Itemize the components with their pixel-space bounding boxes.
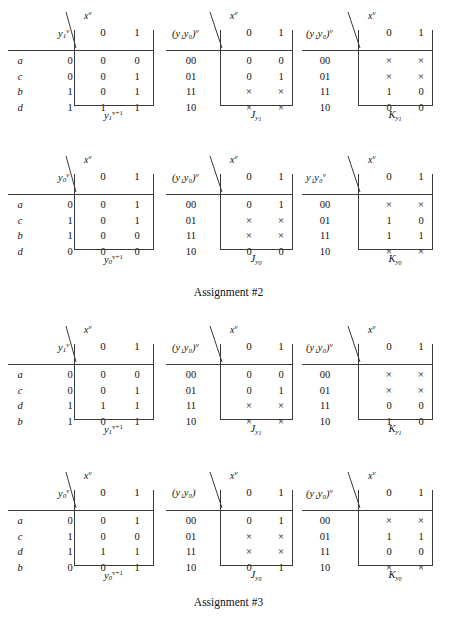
column-header-1: 1 — [414, 26, 428, 38]
row-state-code: 01 — [314, 385, 336, 396]
row-state-code: 01 — [314, 531, 336, 542]
table-header: xvy0v01 — [8, 468, 156, 510]
transition-table: xvy1v01a000c001b101d111y1v+1 — [8, 8, 156, 117]
row-state-name: d — [12, 400, 28, 411]
table-header: xv(y₁y₀)v01 — [166, 8, 294, 50]
table-row: 0000 — [166, 55, 294, 71]
column-header-0: 0 — [382, 486, 396, 498]
state-variable-label: (y₁y₀)v — [306, 487, 333, 499]
table-row: 1100 — [302, 400, 442, 416]
transition-table: xv(y₁y₀)v0100××01××11001010Ky1 — [302, 322, 442, 431]
table-row: 01×× — [166, 531, 294, 547]
cell-value-x1: 1 — [130, 515, 144, 526]
row-state-code: 0 — [62, 199, 78, 210]
table-caption: Ky1 — [358, 109, 432, 122]
state-variable-label: (y₁y₀)v — [306, 27, 333, 39]
state-variable-label: (y₁y₀)v — [306, 341, 333, 353]
column-header-0: 0 — [382, 26, 396, 38]
column-header-1: 1 — [130, 26, 144, 38]
cell-value-x0: 0 — [96, 385, 110, 396]
box-left-border — [220, 490, 221, 565]
table-body: 0000010111××10×× — [166, 50, 294, 117]
table-row: 0001 — [166, 199, 294, 215]
column-header-1: 1 — [414, 170, 428, 182]
cell-value-x1: × — [274, 546, 288, 557]
column-header-0: 0 — [382, 170, 396, 182]
column-header-0: 0 — [242, 486, 256, 498]
cell-value-x1: 0 — [414, 400, 428, 411]
row-state-code: 10 — [314, 416, 336, 427]
box-bottom-border — [74, 565, 154, 566]
cell-value-x0: × — [242, 531, 256, 542]
state-variable-label: (y₁y₀)v — [172, 27, 199, 39]
table-row: b100 — [8, 230, 156, 246]
state-variable-label: y0v — [58, 487, 69, 500]
table-header: xvy₁y₀v01 — [302, 152, 442, 194]
box-bottom-border — [220, 249, 293, 250]
row-state-code: 01 — [314, 71, 336, 82]
cell-value-x1: 0 — [414, 215, 428, 226]
cell-value-x1: × — [414, 55, 428, 66]
cell-value-x0: 0 — [242, 199, 256, 210]
box-right-border — [292, 30, 293, 105]
row-state-code: 00 — [180, 199, 202, 210]
table-body: 00××0110111110×× — [302, 194, 442, 261]
column-header-1: 1 — [130, 340, 144, 352]
table-caption: Ky0 — [358, 569, 432, 582]
box-left-border — [358, 344, 359, 419]
box-right-border — [432, 30, 433, 105]
table-caption: Jy0 — [220, 253, 292, 266]
box-right-border — [432, 490, 433, 565]
box-bottom-border — [74, 105, 154, 106]
table-row: 0101 — [166, 71, 294, 87]
row-state-code: 0 — [62, 515, 78, 526]
table-caption: Jy0 — [220, 569, 292, 582]
row-state-name: d — [12, 102, 28, 113]
table-row: c001 — [8, 385, 156, 401]
cell-value-x0: 1 — [382, 230, 396, 241]
table-body: 00××01××11001010 — [302, 364, 442, 431]
cell-value-x0: × — [382, 199, 396, 210]
row-state-code: 1 — [62, 400, 78, 411]
column-header-0: 0 — [242, 170, 256, 182]
transition-table: xv(y₁y₀)v0100××0111110010××Ky0 — [302, 468, 442, 577]
box-left-border — [220, 174, 221, 249]
input-variable-label: xv — [230, 153, 238, 165]
row-state-code: 01 — [180, 531, 202, 542]
cell-value-x0: 0 — [96, 369, 110, 380]
input-variable-label: xv — [230, 323, 238, 335]
cell-value-x1: 1 — [130, 385, 144, 396]
table-row: d111 — [8, 400, 156, 416]
table-row: 11×× — [166, 86, 294, 102]
row-state-name: c — [12, 215, 28, 226]
cell-value-x0: × — [242, 230, 256, 241]
cell-value-x0: 0 — [242, 71, 256, 82]
assignment-caption: Assignment #2 — [0, 286, 457, 298]
transition-table: xv(y₁y₀)v0100××01××11101000Ky1 — [302, 8, 442, 117]
row-state-name: b — [12, 86, 28, 97]
cell-value-x1: 1 — [274, 515, 288, 526]
table-body: 00××0111110010×× — [302, 510, 442, 577]
cell-value-x1: 0 — [130, 55, 144, 66]
input-variable-label: xv — [84, 9, 92, 21]
row-state-code: 01 — [314, 215, 336, 226]
cell-value-x1: 0 — [130, 531, 144, 542]
row-state-code: 01 — [180, 215, 202, 226]
cell-value-x0: 0 — [242, 385, 256, 396]
box-bottom-border — [358, 419, 433, 420]
table-body: a001c101b100d000 — [8, 194, 156, 261]
cell-value-x1: 1 — [130, 215, 144, 226]
table-row: 1111 — [302, 230, 442, 246]
row-state-code: 00 — [314, 369, 336, 380]
table-header: xv(y₁y₀)v01 — [302, 8, 442, 50]
table-body: 000101××11××1000 — [166, 194, 294, 261]
cell-value-x1: 1 — [274, 199, 288, 210]
cell-value-x0: 0 — [242, 515, 256, 526]
row-state-name: c — [12, 385, 28, 396]
cell-value-x0: 0 — [96, 71, 110, 82]
cell-value-x0: × — [242, 215, 256, 226]
table-header: xv(y₁y₀)v01 — [166, 322, 294, 364]
cell-value-x0: 0 — [96, 215, 110, 226]
table-caption: Jy1 — [220, 423, 292, 436]
cell-value-x0: × — [382, 55, 396, 66]
